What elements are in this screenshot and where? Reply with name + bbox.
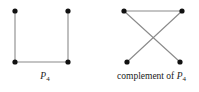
- graph-vertex: [124, 59, 129, 64]
- caption-p4: P4: [0, 72, 90, 83]
- graph-vertex: [12, 59, 17, 64]
- graph-complement-p4: [121, 8, 184, 64]
- caption-complement-prefix: complement of: [117, 71, 177, 81]
- graph-vertex: [12, 8, 17, 13]
- graph-p4: [12, 8, 70, 64]
- graph-vertex: [65, 59, 70, 64]
- graph-vertex: [65, 8, 70, 13]
- caption-p4-subscript: 4: [46, 75, 50, 83]
- graph-edge: [127, 11, 182, 62]
- caption-complement-subscript: 4: [182, 75, 186, 83]
- graph-vertex: [177, 59, 182, 64]
- graph-edge: [124, 11, 180, 62]
- graph-vertex: [179, 8, 184, 13]
- caption-complement-p4: complement of P4: [104, 72, 199, 83]
- graph-vertex: [121, 8, 126, 13]
